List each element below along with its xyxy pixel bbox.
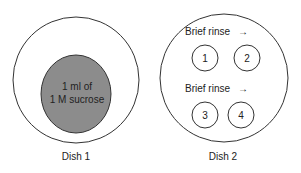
rinse-label-2: Brief rinse — [185, 83, 230, 94]
dish-1-label: Dish 1 — [62, 151, 91, 162]
well-1-label: 1 — [202, 53, 208, 64]
well-3-label: 3 — [202, 110, 208, 121]
arrow-right-icon: → — [238, 26, 248, 37]
dish-1: 1 ml of 1 M sucrose Dish 1 — [13, 17, 139, 162]
sucrose-label-line1: 1 ml of — [62, 81, 92, 92]
well-4-label: 4 — [238, 110, 244, 121]
sucrose-label-line2: 1 M sucrose — [50, 94, 105, 105]
arrow-right-icon: → — [238, 83, 248, 94]
well-2-label: 2 — [244, 53, 250, 64]
diagram-canvas: 1 ml of 1 M sucrose Dish 1 Brief rinse →… — [0, 0, 301, 173]
dish-2-label: Dish 2 — [209, 151, 238, 162]
dish-2: Brief rinse → 1 2 Brief rinse → 3 4 Dish… — [160, 14, 288, 162]
rinse-label-1: Brief rinse — [185, 26, 230, 37]
